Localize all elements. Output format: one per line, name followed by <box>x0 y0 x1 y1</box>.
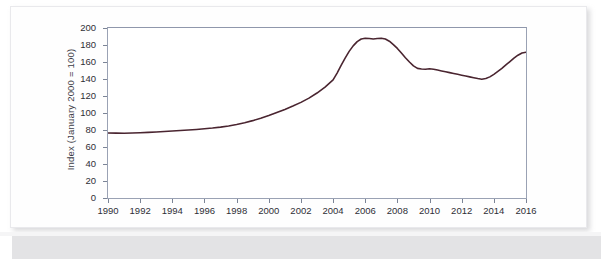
x-tick-mark <box>108 199 109 203</box>
x-tick-mark <box>301 199 302 203</box>
plot-area <box>107 27 527 199</box>
y-axis-ticks: 200180160140120100806040200 <box>0 0 107 232</box>
x-tick-mark <box>204 199 205 203</box>
scanned-page: Index (January 2000 = 100) 2001801601401… <box>0 0 601 259</box>
x-tick-mark <box>526 199 527 203</box>
x-tick-mark <box>494 199 495 203</box>
chart-figure: Index (January 2000 = 100) 2001801601401… <box>0 0 601 232</box>
y-tick-label: 40 <box>52 159 96 169</box>
x-tick-mark <box>140 199 141 203</box>
x-tick-label: 2016 <box>506 205 546 216</box>
y-tick-label: 80 <box>52 125 96 135</box>
line-series-svg <box>108 28 526 198</box>
x-tick-mark <box>172 199 173 203</box>
x-tick-mark <box>430 199 431 203</box>
y-tick-label: 60 <box>52 142 96 152</box>
y-tick-label: 160 <box>52 57 96 67</box>
y-tick-label: 100 <box>52 108 96 118</box>
x-tick-mark <box>365 199 366 203</box>
y-tick-label: 180 <box>52 40 96 50</box>
series-line <box>108 38 526 133</box>
x-tick-mark <box>462 199 463 203</box>
x-tick-mark <box>237 199 238 203</box>
y-tick-label: 20 <box>52 176 96 186</box>
x-tick-mark <box>269 199 270 203</box>
page-bottom-band <box>12 236 601 259</box>
y-tick-label: 120 <box>52 91 96 101</box>
x-tick-mark <box>397 199 398 203</box>
y-tick-label: 200 <box>52 23 96 33</box>
y-tick-label: 140 <box>52 74 96 84</box>
y-tick-label: 0 <box>52 193 96 203</box>
x-tick-mark <box>333 199 334 203</box>
